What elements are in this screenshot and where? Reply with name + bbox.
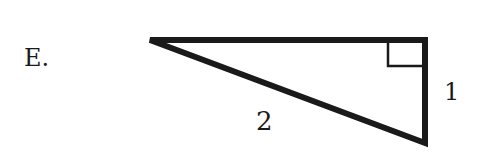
right-angle-marker [388, 40, 425, 66]
diagram-stage: E. 2 1 [0, 0, 498, 159]
triangle-outline [150, 40, 425, 143]
right-triangle-figure [0, 0, 498, 159]
hypotenuse-length-label: 2 [256, 108, 273, 134]
vertical-leg-length-label: 1 [444, 80, 459, 104]
